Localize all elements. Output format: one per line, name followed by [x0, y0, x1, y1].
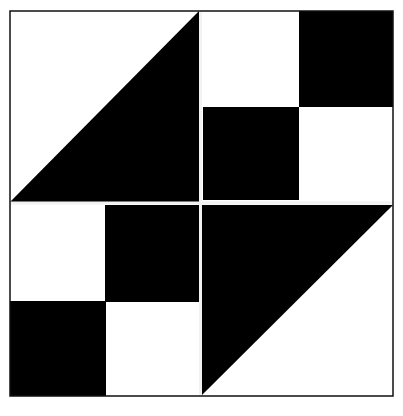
- dark-square-bottom-left: [10, 301, 106, 396]
- quilt-block: [0, 0, 403, 416]
- dark-square-top-right: [105, 205, 199, 302]
- dark-square-top-right: [299, 11, 393, 107]
- dark-square-bottom-left: [203, 107, 299, 200]
